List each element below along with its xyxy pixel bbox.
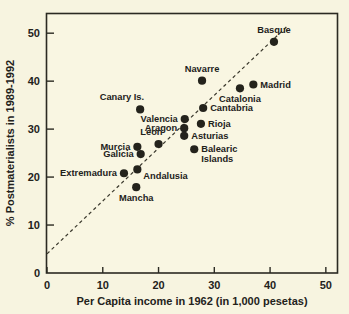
data-point-label: BalearicIslands <box>201 144 237 164</box>
y-tick-label: 0 <box>34 267 40 279</box>
data-point <box>137 150 145 158</box>
data-point-label: Andalusia <box>143 171 188 181</box>
plot-frame <box>47 14 338 274</box>
x-axis-title: Per Capita income in 1962 (in 1,000 pese… <box>76 295 307 307</box>
y-tick-label: 20 <box>28 171 40 183</box>
data-point-label: Asturias <box>191 131 228 141</box>
data-point <box>181 115 189 123</box>
data-point-label: Navarre <box>185 64 220 74</box>
data-point-label: Leon <box>140 127 163 137</box>
chart-canvas: 0102030405001020304050 BasqueNavarreMadr… <box>0 0 349 314</box>
y-tick-label: 10 <box>28 219 40 231</box>
x-tick-label: 20 <box>152 279 164 291</box>
x-tick-label: 0 <box>44 279 50 291</box>
data-point-label: Canary Is. <box>100 92 144 102</box>
x-tick-label: 30 <box>208 279 220 291</box>
y-tick-label: 50 <box>28 27 40 39</box>
data-point <box>236 84 244 92</box>
data-point <box>249 80 257 88</box>
data-point <box>180 124 188 132</box>
data-point-label: Madrid <box>260 80 291 90</box>
y-tick-label: 30 <box>28 123 40 135</box>
data-point-label: Mancha <box>119 193 154 203</box>
data-point <box>197 120 205 128</box>
data-point-label: Cantabria <box>210 103 254 113</box>
data-point <box>133 143 141 151</box>
data-point <box>180 132 188 140</box>
data-point <box>190 145 198 153</box>
y-tick-label: 40 <box>28 75 40 87</box>
data-point-label: Rioja <box>208 119 232 129</box>
data-point <box>132 183 140 191</box>
x-tick-label: 10 <box>97 279 109 291</box>
data-point <box>133 165 141 173</box>
data-point <box>120 169 128 177</box>
data-point-label: Galicia <box>103 149 134 159</box>
x-tick-label: 50 <box>320 279 332 291</box>
scatter-plot-figure: 0102030405001020304050 BasqueNavarreMadr… <box>0 0 349 314</box>
data-point <box>154 140 162 148</box>
data-point <box>136 105 144 113</box>
data-point <box>270 38 278 46</box>
data-point-label: Basque <box>257 25 291 35</box>
x-tick-label: 40 <box>264 279 276 291</box>
data-point-label: Extremadura <box>60 168 118 178</box>
y-axis-title: % Postmaterialists in 1989-1992 <box>4 60 16 226</box>
data-point <box>198 77 206 85</box>
data-point <box>199 104 207 112</box>
